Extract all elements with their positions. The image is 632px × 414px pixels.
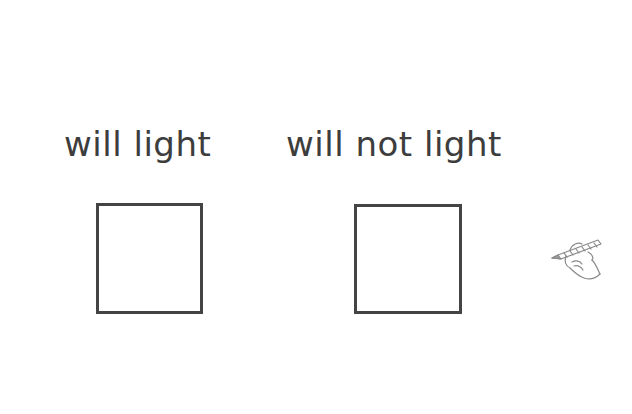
answer-box-will-not-light[interactable] (354, 204, 462, 314)
hand-writing-pencil-icon (548, 232, 606, 284)
answer-box-will-light[interactable] (96, 203, 203, 314)
category-label-will-light: will light (64, 124, 211, 164)
category-label-will-not-light: will not light (286, 124, 502, 164)
